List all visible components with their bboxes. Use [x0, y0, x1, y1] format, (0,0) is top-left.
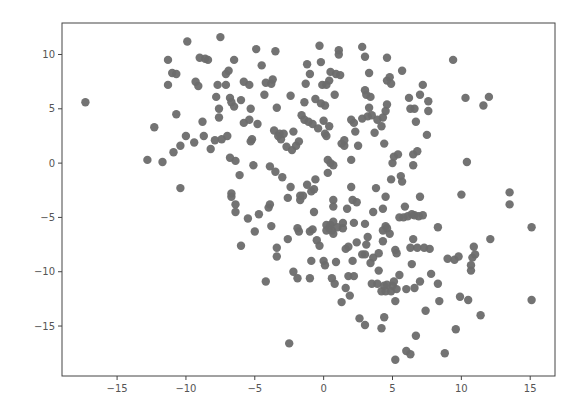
data-point: [419, 81, 427, 89]
data-point: [362, 240, 370, 248]
x-tick-label: −15: [107, 383, 128, 394]
data-point: [311, 175, 319, 183]
data-point: [213, 81, 221, 89]
data-point: [172, 110, 180, 118]
data-point: [172, 70, 180, 78]
data-point: [289, 127, 297, 135]
data-point: [479, 101, 487, 109]
data-point: [260, 91, 268, 99]
data-point: [273, 244, 281, 252]
data-point: [434, 223, 442, 231]
data-point: [310, 208, 318, 216]
data-point: [377, 324, 385, 332]
data-point: [81, 98, 89, 106]
data-point: [337, 298, 345, 306]
data-point: [245, 81, 253, 89]
data-point: [408, 260, 416, 268]
data-point: [471, 250, 479, 258]
data-point: [307, 257, 315, 265]
data-point: [227, 193, 235, 201]
data-point: [454, 252, 462, 260]
data-point: [266, 200, 274, 208]
x-tick-label: 15: [524, 383, 537, 394]
data-point: [423, 131, 431, 139]
data-point: [231, 157, 239, 165]
data-point: [284, 194, 292, 202]
data-point: [387, 175, 395, 183]
data-point: [315, 242, 323, 250]
data-point: [392, 249, 400, 257]
x-tick-label: 5: [389, 383, 395, 394]
data-point: [249, 161, 257, 169]
data-point: [258, 61, 266, 69]
data-point: [278, 173, 286, 181]
data-point: [505, 200, 513, 208]
data-point: [380, 313, 388, 321]
data-point: [365, 69, 373, 77]
y-tick-label: −5: [40, 212, 55, 223]
data-point: [402, 285, 410, 293]
data-point: [413, 147, 421, 155]
data-point: [306, 274, 314, 282]
data-point: [262, 277, 270, 285]
data-point: [204, 56, 212, 64]
data-point: [164, 56, 172, 64]
data-point: [215, 105, 223, 113]
y-tick-label: 5: [49, 103, 55, 114]
data-point: [476, 311, 484, 319]
data-point: [329, 161, 337, 169]
data-point: [237, 96, 245, 104]
x-axis: −15−10−5051015: [107, 376, 537, 394]
data-point: [285, 339, 293, 347]
data-point: [416, 193, 424, 201]
data-point: [449, 56, 457, 64]
data-point: [299, 192, 307, 200]
x-tick-label: 10: [455, 383, 468, 394]
data-point: [216, 33, 224, 41]
x-tick-label: −5: [247, 383, 262, 394]
data-point: [380, 139, 388, 147]
data-point: [354, 142, 362, 150]
data-point: [273, 104, 281, 112]
data-point: [331, 280, 339, 288]
data-point: [253, 120, 261, 128]
data-point: [405, 94, 413, 102]
data-point: [377, 122, 385, 130]
data-point: [329, 202, 337, 210]
data-point: [336, 71, 344, 79]
data-point: [308, 225, 316, 233]
data-point: [457, 190, 465, 198]
data-point: [252, 45, 260, 53]
data-point: [325, 76, 333, 84]
data-point: [372, 184, 380, 192]
data-point: [183, 37, 191, 45]
data-point: [412, 118, 420, 126]
y-tick-label: 10: [42, 49, 55, 60]
points-layer: [81, 33, 536, 364]
data-point: [527, 223, 535, 231]
data-point: [230, 102, 238, 110]
data-point: [331, 91, 339, 99]
data-point: [150, 123, 158, 131]
data-point: [406, 350, 414, 358]
data-point: [273, 252, 281, 260]
data-point: [222, 81, 230, 89]
data-point: [353, 238, 361, 246]
data-point: [361, 220, 369, 228]
data-point: [314, 124, 322, 132]
data-point: [410, 284, 418, 292]
data-point: [391, 356, 399, 364]
data-point: [390, 277, 398, 285]
data-point: [143, 156, 151, 164]
data-point: [295, 137, 303, 145]
data-point: [247, 105, 255, 113]
y-tick-label: 0: [49, 158, 55, 169]
data-point: [364, 233, 372, 241]
scatter-chart: −15−10−5051015 1050−5−10−15: [0, 0, 584, 415]
data-point: [416, 91, 424, 99]
data-point: [321, 101, 329, 109]
data-point: [348, 257, 356, 265]
data-point: [286, 183, 294, 191]
data-point: [419, 211, 427, 219]
data-point: [342, 284, 350, 292]
